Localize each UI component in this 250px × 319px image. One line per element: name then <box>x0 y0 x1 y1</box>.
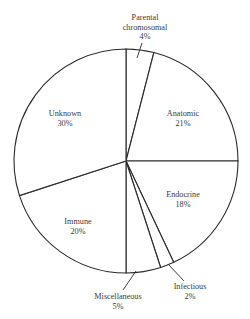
label-percent: 18% <box>175 200 190 209</box>
label-percent: 21% <box>175 119 190 128</box>
label-name-line2: chromosomal <box>123 23 168 32</box>
label-name: Infectious <box>174 282 207 291</box>
label-name: Unknown <box>49 109 81 118</box>
label-name: Parental <box>132 13 160 22</box>
label-parental-chromosomal: Parental chromosomal 4% <box>123 13 168 41</box>
pie-chart: Parental chromosomal 4% Anatomic 21% End… <box>0 0 250 319</box>
label-percent: 4% <box>140 32 151 41</box>
label-percent: 5% <box>113 302 124 311</box>
label-percent: 30% <box>57 119 72 128</box>
label-name: Anatomic <box>167 109 200 118</box>
label-miscellaneous: Miscellaneous 5% <box>94 292 141 311</box>
label-infectious: Infectious 2% <box>174 282 207 301</box>
label-percent: 20% <box>70 227 85 236</box>
leader-line-infectious <box>169 265 184 281</box>
leader-line-miscellaneous <box>123 271 136 290</box>
label-name: Miscellaneous <box>94 292 141 301</box>
label-name: Endocrine <box>166 190 200 199</box>
label-percent: 2% <box>185 292 196 301</box>
label-name: Immune <box>64 217 92 226</box>
pie-slices <box>14 49 238 273</box>
